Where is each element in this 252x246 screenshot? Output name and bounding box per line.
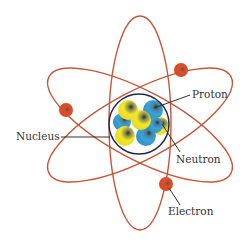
nucleus <box>109 94 169 154</box>
electron <box>159 177 173 191</box>
electron <box>59 103 73 117</box>
electron-leader <box>169 188 180 205</box>
electron-label: Electron <box>168 205 214 217</box>
nucleus-label: Nucleus <box>16 130 60 142</box>
atom-diagram: Proton Nucleus Neutron Electron <box>0 0 252 246</box>
electron <box>174 63 188 77</box>
neutron <box>131 110 151 130</box>
neutron-label: Neutron <box>176 153 221 165</box>
proton-label: Proton <box>192 88 228 100</box>
neutron <box>115 126 135 146</box>
